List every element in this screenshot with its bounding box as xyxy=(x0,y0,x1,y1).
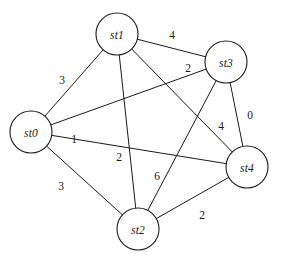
node-label: st0 xyxy=(24,127,38,139)
edge-weight-label: 3 xyxy=(59,74,65,86)
graph-edge xyxy=(52,135,227,163)
graph-canvas: 3420412632 st0st1st2st3st4 xyxy=(0,0,283,262)
node-label: st3 xyxy=(219,57,233,69)
edge-weight-label: 1 xyxy=(71,133,77,145)
edge-weight-label: 0 xyxy=(247,109,253,121)
node-label: st2 xyxy=(131,224,145,236)
graph-node-st2[interactable]: st2 xyxy=(117,208,159,250)
edge-weight-label: 3 xyxy=(58,180,64,192)
graph-edge xyxy=(119,55,136,208)
edge-weight-label: 4 xyxy=(218,120,224,132)
graph-node-st4[interactable]: st4 xyxy=(226,146,268,188)
graph-edge xyxy=(137,39,205,57)
edge-weight-label: 2 xyxy=(116,151,122,163)
graph-node-st0[interactable]: st0 xyxy=(10,111,52,153)
graph-node-st3[interactable]: st3 xyxy=(205,41,247,83)
edge-weight-label: 2 xyxy=(185,62,191,74)
edge-weight-label: 6 xyxy=(154,170,160,182)
edge-weight-label: 2 xyxy=(199,209,205,221)
graph-edge xyxy=(45,50,103,116)
graph-edge xyxy=(156,177,228,218)
edge-weight-label: 4 xyxy=(169,29,175,41)
node-label: st1 xyxy=(110,29,124,41)
node-label: st4 xyxy=(240,162,254,174)
graph-figure: 3420412632 st0st1st2st3st4 xyxy=(0,0,283,262)
graph-node-st1[interactable]: st1 xyxy=(96,13,138,55)
node-layer: st0st1st2st3st4 xyxy=(10,13,268,250)
graph-edge xyxy=(230,83,243,147)
graph-edge xyxy=(51,69,206,125)
